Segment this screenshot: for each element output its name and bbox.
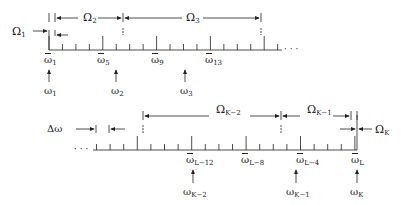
interval-label: ΩK−2 — [216, 104, 241, 117]
bottom-ticks — [97, 136, 355, 150]
interval-label: Ω2 — [83, 12, 97, 25]
interval-label-subscript: K — [384, 129, 389, 137]
grid-frequency-label-subscript: L−4 — [304, 159, 319, 167]
bottom-ellipsis: · · · — [74, 144, 88, 154]
grid-frequency-label: ωL−4 — [296, 155, 319, 167]
top-ticks — [49, 36, 278, 50]
step-label: Δω — [47, 124, 62, 134]
interval-label: Ω3 — [186, 12, 200, 25]
interval-label-subscript: 2 — [92, 17, 96, 25]
interval-label-subscript: K−1 — [316, 109, 332, 117]
interval-label-symbol: Ω — [216, 103, 225, 116]
center-frequency-label-subscript: K−1 — [294, 191, 310, 199]
center-frequency-label-subscript: 1 — [52, 90, 56, 98]
center-frequency-label: ωK−1 — [286, 187, 310, 199]
grid-frequency-label: ωL−8 — [241, 155, 264, 167]
center-frequency-label-symbol: ω — [350, 186, 358, 197]
bottom-axis — [93, 115, 357, 150]
center-frequency-label-symbol: ω — [286, 186, 294, 197]
interval-label-subscript: 1 — [21, 31, 25, 39]
center-frequency-label-subscript: K — [358, 191, 363, 199]
grid-frequency-label: ω9 — [151, 55, 164, 67]
grid-frequency-label-symbol: ω — [151, 55, 159, 65]
grid-frequency-label-symbol: ω — [351, 155, 359, 165]
interval-label-symbol: Ω — [12, 25, 21, 38]
center-frequency-label-subscript: 3 — [188, 90, 192, 98]
interval-label-symbol: Ω — [83, 11, 92, 24]
grid-frequency-label-symbol: ω — [44, 55, 52, 65]
grid-frequency-label-symbol: ω — [205, 55, 213, 65]
grid-frequency-label-subscript: 1 — [52, 59, 56, 67]
center-frequency-label: ωK — [350, 187, 363, 199]
interval-label: Ω1 — [12, 26, 26, 39]
grid-frequency-label: ω1 — [44, 55, 57, 67]
center-frequency-label-symbol: ω — [44, 85, 52, 96]
top-center-arrows — [49, 70, 185, 82]
grid-frequency-label: ω13 — [205, 55, 222, 67]
center-frequency-label: ω2 — [111, 86, 124, 98]
center-frequency-label: ω3 — [180, 86, 193, 98]
interval-label-symbol: Ω — [186, 11, 195, 24]
interval-label-symbol: Ω — [307, 103, 316, 116]
center-frequency-label-symbol: ω — [180, 85, 188, 96]
grid-frequency-label-subscript: L — [359, 159, 364, 167]
interval-label: ΩK — [375, 124, 389, 137]
center-frequency-label-subscript: K−2 — [191, 191, 207, 199]
grid-frequency-label-subscript: 5 — [105, 59, 109, 67]
grid-frequency-label-subscript: L−8 — [249, 159, 264, 167]
step-label-symbol: Δω — [47, 123, 62, 134]
center-frequency-label-subscript: 2 — [119, 90, 123, 98]
top-interval-markers — [33, 13, 261, 36]
grid-frequency-label-symbol: ω — [241, 155, 249, 165]
grid-frequency-label-symbol: ω — [186, 155, 194, 165]
diagram-graphics: · · · · · · — [0, 0, 406, 205]
center-frequency-label: ωK−2 — [183, 187, 207, 199]
interval-label-symbol: Ω — [375, 123, 384, 136]
grid-frequency-label-subscript: 9 — [159, 59, 163, 67]
grid-frequency-label-subscript: L−12 — [194, 159, 213, 167]
grid-frequency-label: ω5 — [97, 55, 110, 67]
interval-label-subscript: 3 — [195, 17, 199, 25]
interval-label-subscript: K−2 — [225, 109, 241, 117]
grid-frequency-label-symbol: ω — [97, 55, 105, 65]
interval-label: ΩK−1 — [307, 104, 332, 117]
grid-frequency-label-symbol: ω — [296, 155, 304, 165]
top-ellipsis: · · · — [284, 44, 298, 54]
grid-frequency-label-subscript: 13 — [213, 59, 222, 67]
grid-frequency-label: ωL — [351, 155, 364, 167]
top-axis — [49, 30, 282, 50]
center-frequency-label-symbol: ω — [111, 85, 119, 96]
center-frequency-label: ω1 — [44, 86, 57, 98]
center-frequency-label-symbol: ω — [183, 186, 191, 197]
bottom-center-arrows — [193, 170, 357, 183]
frequency-grid-diagram: · · · · · · Ω1Ω2Ω3ω1ω5ω9ω13ω1ω2ω3ΩK−2ΩK−… — [0, 0, 406, 205]
grid-frequency-label: ωL−12 — [186, 155, 214, 167]
